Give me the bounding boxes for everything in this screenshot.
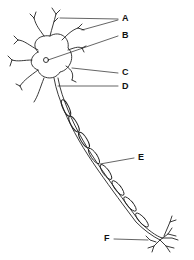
myelin-sheath	[59, 99, 150, 229]
label-d: D	[122, 82, 129, 91]
label-e: E	[138, 153, 144, 162]
label-f: F	[104, 234, 110, 243]
neuron-diagram	[0, 0, 194, 260]
label-a: A	[122, 14, 129, 23]
cell-body	[31, 34, 71, 78]
label-c: C	[122, 68, 129, 77]
label-b: B	[122, 31, 129, 40]
